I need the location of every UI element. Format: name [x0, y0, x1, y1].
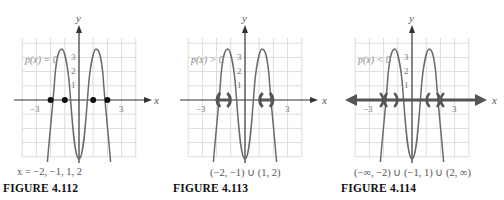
figure-4-113: p(x) > 0 −3 3 3 2 1 x y (−2, −1) ∪ (1, 2…: [166, 0, 336, 200]
figure-caption: FIGURE 4.113: [173, 182, 248, 194]
y-axis-arrow-icon: [409, 25, 415, 33]
right-arrow-icon: [475, 94, 487, 106]
condition-label: p(x) > 0: [190, 54, 224, 66]
solution-text: (−2, −1) ∪ (1, 2): [210, 166, 281, 178]
y-axis-label: y: [75, 12, 81, 24]
tick-y3: 3: [404, 52, 409, 62]
solution-text: (−∞, −2) ∪ (−1, 1) ∪ (2, ∞): [354, 166, 471, 178]
plot-4-113: p(x) > 0 −3 3 3 2 1 x y: [166, 0, 336, 170]
tick-y2: 2: [404, 66, 409, 76]
tick-y2: 2: [71, 66, 76, 76]
tick-3: 3: [452, 104, 457, 114]
tick-y1: 1: [71, 80, 76, 90]
y-axis-label: y: [408, 12, 414, 24]
tick-y3: 3: [237, 52, 242, 62]
figure-caption: FIGURE 4.114: [341, 182, 416, 194]
solution-text: x = −2, −1, 1, 2: [17, 166, 82, 177]
figure-4-112: p(x) = 0 −3 3 3 2 1 x y x = −2, −1, 1, 2…: [0, 0, 170, 200]
x-axis-label: x: [491, 94, 497, 106]
x-axis-label: x: [321, 94, 327, 106]
x-axis-arrow-icon: [144, 97, 152, 103]
y-axis-label: y: [241, 12, 247, 24]
x-axis-label: x: [153, 94, 159, 106]
tick-neg3: −3: [196, 104, 206, 114]
x-axis-arrow-icon: [310, 97, 318, 103]
y-axis-arrow-icon: [76, 25, 82, 33]
figure-caption: FIGURE 4.112: [3, 182, 78, 194]
tick-neg3: −3: [30, 104, 40, 114]
tick-y3: 3: [71, 52, 76, 62]
tick-3: 3: [285, 104, 290, 114]
left-arrow-icon: [345, 94, 357, 106]
tick-y1: 1: [404, 80, 409, 90]
tick-3: 3: [119, 104, 124, 114]
condition-label: p(x) = 0: [24, 54, 58, 66]
condition-label: p(x) < 0: [357, 54, 391, 66]
y-axis-arrow-icon: [242, 25, 248, 33]
tick-y2: 2: [237, 66, 242, 76]
plot-4-112: p(x) = 0 −3 3 3 2 1 x y: [0, 0, 170, 170]
tick-y1: 1: [237, 80, 242, 90]
figure-4-114: p(x) < 0 −3 3 3 2 1 x y (−∞, −2) ∪ (−1, …: [333, 0, 504, 200]
plot-4-114: p(x) < 0 −3 3 3 2 1 x y: [333, 0, 504, 170]
tick-neg3: −3: [363, 104, 373, 114]
